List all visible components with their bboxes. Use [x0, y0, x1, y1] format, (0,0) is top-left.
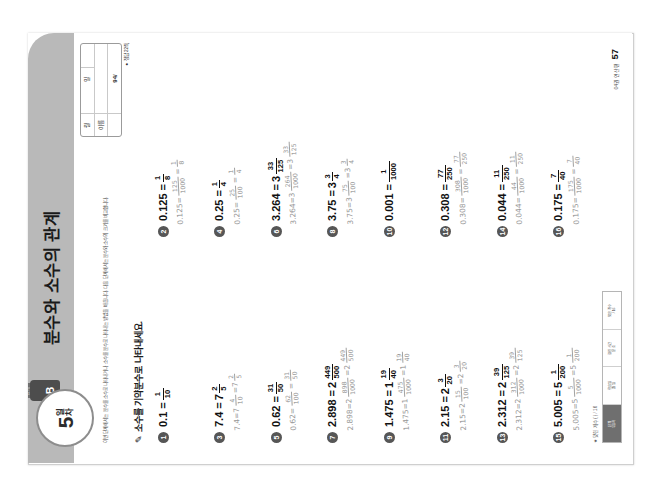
numerator: 75	[340, 182, 348, 193]
work-token: =	[514, 197, 523, 204]
numerator: 1	[564, 352, 571, 359]
work-token: =	[288, 197, 297, 204]
work-token: 3.75	[345, 208, 355, 225]
problem-number: 10	[384, 226, 395, 237]
fraction: 2641000	[283, 171, 299, 191]
day-label: 일	[81, 67, 94, 90]
equals-sign: =	[553, 390, 564, 396]
work-token: 5	[568, 365, 577, 370]
decimal-value: 0.001	[384, 193, 395, 221]
work-token: =	[570, 403, 579, 410]
work-token: =	[232, 412, 241, 419]
fraction: 34	[339, 158, 355, 166]
problem-number: 13	[497, 432, 508, 443]
month-label: 월	[81, 113, 94, 136]
denominator: 125	[515, 348, 524, 363]
work-token: 0.044	[514, 203, 524, 225]
work-token: =	[570, 197, 579, 204]
fraction: 8981000	[340, 377, 356, 397]
denominator: 100	[291, 391, 300, 406]
fraction: 449500	[338, 348, 354, 364]
numerator: 3	[324, 172, 333, 180]
problem-item: 132.312=2391252.312 = 2 3121000 = 2 3912…	[493, 257, 550, 443]
answer-note: ● 정답 22쪽	[123, 43, 129, 65]
fraction: 4751000	[396, 377, 412, 397]
denominator: 4	[234, 168, 242, 175]
day-badge: 5 일 차	[36, 389, 94, 447]
handwritten-work: 2.15 = 2 15100 = 2 320	[452, 358, 471, 431]
work-token: 0.62	[288, 414, 298, 431]
table-row[interactable]: 이름	[95, 44, 109, 136]
numerator: 308	[453, 179, 461, 194]
fraction: 33125	[282, 142, 298, 158]
instruction-text: 소수를 기약분수로 나타내세요.	[134, 321, 144, 433]
footer-strip-cell[interactable]: 단계5일차	[603, 404, 621, 442]
problem-statement: 10.1=110	[154, 257, 172, 443]
numerator: 1	[211, 180, 220, 188]
problem-number: 8	[327, 226, 338, 237]
work-token: 7	[231, 408, 240, 413]
handwritten-work: 7.4 = 7 410 = 7 25	[226, 371, 244, 431]
work-token: =	[514, 403, 523, 410]
fraction: 320	[452, 360, 468, 372]
work-token: 1	[399, 365, 408, 370]
numerator: 39	[493, 366, 502, 378]
fraction: 3150	[267, 382, 285, 394]
work-token: 0.125	[175, 203, 185, 225]
footer-strip-cell[interactable]: 학습일월 일	[603, 367, 621, 405]
screenshot-canvas: 단계 B 5 일 차 분수와 소수의 관계 월 일	[0, 0, 661, 493]
numerator: 7	[550, 172, 559, 180]
page-number: 57	[609, 49, 620, 60]
whole-number: 3	[271, 176, 282, 182]
work-token: =	[230, 387, 239, 394]
problem-item: 120.308=772500.308 = 3081000 = 77250	[437, 51, 494, 237]
equals-sign: =	[553, 184, 564, 190]
problem-number: 1	[158, 432, 169, 443]
work-token: =	[231, 202, 240, 209]
fraction: 39125	[508, 348, 524, 364]
denominator: 100	[235, 185, 244, 200]
problem-number: 11	[440, 432, 451, 443]
whole-number: 5	[553, 382, 564, 388]
work-token: 0.25	[232, 208, 242, 225]
instruction-line: ✎소수를 기약분수로 나타내세요.	[132, 321, 145, 443]
work-token: 3	[287, 192, 296, 197]
numerator: 25	[228, 187, 236, 198]
denominator: 500	[345, 348, 354, 363]
score-value: 94/	[112, 44, 118, 113]
numerator: 7	[565, 157, 572, 164]
work-token: =	[342, 369, 351, 376]
work-token: 7.4	[232, 419, 242, 431]
footer-record-strip[interactable]: 단계5일차학습일월 일걸린 시간분 초맞은 개수/ 16	[602, 291, 622, 443]
problem-item: 140.044=112500.044 = 441000 = 11250	[493, 51, 550, 237]
fraction: 25	[211, 384, 229, 392]
denominator: 250	[515, 151, 524, 166]
problem-item: 83.75=3343.75 = 3 75100 = 3 34	[324, 51, 381, 237]
equals-sign: =	[158, 184, 169, 190]
decimal-value: 5.005	[553, 399, 564, 427]
fraction: 3121000	[509, 377, 525, 397]
fraction: 34	[324, 172, 342, 180]
student-info-table[interactable]: 월 일 이름 94/	[80, 43, 122, 137]
table-row[interactable]: 월 일	[81, 44, 95, 136]
work-token: 2	[342, 365, 351, 370]
fraction: 740	[565, 155, 581, 167]
decimal-value: 2.898	[327, 399, 338, 427]
fraction: 1200	[564, 348, 580, 364]
denominator: 1000	[403, 377, 412, 396]
decimal-value: 3.264	[271, 193, 282, 221]
problem-statement: 140.044=11250	[493, 51, 511, 237]
numerator: 77	[452, 154, 460, 165]
equals-sign: =	[158, 402, 169, 408]
fraction: 1251000	[170, 176, 186, 196]
footer-strip-cell[interactable]: 걸린 시간분 초	[603, 329, 621, 367]
fraction: 77250	[437, 165, 455, 182]
numerator: 4	[228, 397, 235, 404]
problem-item: 63.264=3331253.264 = 3 2641000 = 3 33125	[267, 51, 324, 237]
work-token: 0.308	[458, 203, 468, 225]
problem-number: 15	[553, 432, 564, 443]
intro-paragraph: 이번 단계에서는 분수를 소수로 나타내거나 소수를 분수로 나타내는 방법을 …	[102, 143, 110, 443]
footer-strip-cell[interactable]: 맞은 개수/ 16	[603, 292, 621, 329]
equals-sign: =	[384, 184, 395, 190]
denominator: 250	[459, 151, 468, 166]
